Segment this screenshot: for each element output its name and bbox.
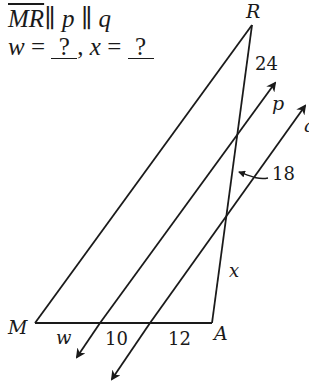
segment-mr: [35, 25, 252, 323]
measure-w: w: [56, 327, 72, 348]
line-q-tag: q: [303, 114, 309, 136]
vertex-m-label: M: [7, 316, 28, 338]
measure-24: 24: [255, 53, 278, 74]
leader-arrow-icon: [239, 172, 268, 179]
line-p-up: [100, 83, 275, 323]
measure-10: 10: [105, 328, 128, 349]
diagram-canvas: R M A p q 24 18 x w 10 12: [0, 0, 309, 381]
line-q-up: [150, 106, 305, 323]
line-p-tag: p: [272, 92, 284, 114]
measure-18: 18: [272, 163, 295, 184]
measure-x: x: [229, 260, 239, 281]
line-p-down: [77, 323, 100, 357]
vertex-r-label: R: [245, 0, 260, 22]
geometry-diagram: MR∥ p ∥ q w = ?, x = ?: [0, 0, 309, 381]
measure-12: 12: [168, 328, 191, 349]
vertex-a-label: A: [212, 322, 228, 344]
